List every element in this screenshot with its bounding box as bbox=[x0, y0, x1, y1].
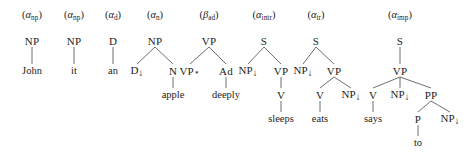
tree-node-vp: VP⋆ bbox=[179, 66, 200, 77]
tree-node-p: P bbox=[415, 114, 421, 125]
tree-node-np: NP↓ bbox=[341, 89, 360, 102]
tree-name-alpha-d-an: (αd) bbox=[105, 10, 121, 22]
tree-edge bbox=[264, 47, 281, 64]
tree-node-s: S bbox=[313, 36, 319, 47]
tree-terminal-john: John bbox=[22, 66, 42, 77]
tree-node-ad: Ad bbox=[219, 66, 233, 77]
substitution-arrow-icon: ↓ bbox=[355, 90, 360, 101]
substitution-arrow-icon: ↓ bbox=[252, 66, 257, 77]
tree-terminal-it: it bbox=[71, 66, 77, 77]
tree-terminal-sleeps: sleeps bbox=[268, 114, 294, 125]
tree-node-d: D bbox=[109, 36, 117, 47]
tree-node-v: V bbox=[277, 90, 285, 101]
tree-terminal-deeply: deeply bbox=[212, 90, 240, 101]
tree-node-s: S bbox=[261, 36, 267, 47]
tree-node-pp: PP bbox=[425, 90, 438, 101]
substitution-arrow-icon: ↓ bbox=[454, 114, 459, 125]
tree-edge bbox=[303, 47, 316, 64]
tree-name-alpha-intr-sleeps: (αintr) bbox=[253, 10, 276, 22]
tree-terminal-to: to bbox=[414, 138, 422, 149]
tree-node-np: NP bbox=[67, 36, 81, 47]
tree-node-vp: VP bbox=[393, 66, 407, 77]
tree-node-np: NP bbox=[148, 36, 162, 47]
tree-node-np: NP↓ bbox=[293, 65, 312, 78]
tree-terminal-eats: eats bbox=[312, 114, 328, 125]
tree-edge bbox=[137, 47, 155, 64]
tree-node-np: NP↓ bbox=[238, 65, 257, 78]
tree-edge bbox=[209, 47, 226, 64]
tree-name-alpha-imp-says: (αimp) bbox=[388, 10, 412, 22]
tree-node-v: V bbox=[316, 90, 324, 101]
tree-edge bbox=[316, 47, 334, 64]
tree-edges-layer bbox=[0, 0, 474, 161]
tree-node-np: NP bbox=[25, 36, 39, 47]
tag-elementary-trees-figure: (αnp)NPJohn(αnp)NPit(αd)Dan(αn)NPD↓Nappl… bbox=[0, 0, 474, 161]
tree-edge bbox=[373, 77, 400, 88]
tree-edge bbox=[431, 101, 450, 112]
tree-node-np: NP↓ bbox=[440, 113, 459, 126]
tree-edge bbox=[320, 77, 334, 88]
tree-node-vp: VP bbox=[327, 66, 341, 77]
tree-edge bbox=[418, 101, 431, 112]
tree-node-vp: VP bbox=[274, 66, 288, 77]
tree-edge bbox=[248, 47, 264, 64]
tree-node-n: N bbox=[169, 66, 177, 77]
tree-terminal-says: says bbox=[364, 114, 382, 125]
tree-name-alpha-n-apple: (αn) bbox=[147, 10, 163, 22]
tree-node-np: NP↓ bbox=[390, 89, 409, 102]
tree-edge bbox=[155, 47, 173, 64]
tree-edge bbox=[334, 77, 351, 88]
tree-edge bbox=[400, 77, 431, 88]
tree-node-s: S bbox=[397, 36, 403, 47]
tree-edge bbox=[190, 47, 209, 64]
tree-name-alpha-np-john: (αnp) bbox=[22, 10, 42, 22]
tree-node-d: D↓ bbox=[131, 65, 144, 78]
tree-node-v: V bbox=[369, 90, 377, 101]
tree-name-alpha-np-it: (αnp) bbox=[64, 10, 84, 22]
tree-name-beta-ad-deeply: (βad) bbox=[199, 10, 218, 22]
tree-name-alpha-tr-eats: (αtr) bbox=[307, 10, 324, 22]
foot-node-star-icon: ⋆ bbox=[194, 66, 200, 76]
tree-terminal-apple: apple bbox=[162, 90, 185, 101]
substitution-arrow-icon: ↓ bbox=[307, 66, 312, 77]
substitution-arrow-icon: ↓ bbox=[404, 90, 409, 101]
tree-terminal-an: an bbox=[108, 66, 118, 77]
tree-node-vp: VP bbox=[202, 36, 216, 47]
substitution-arrow-icon: ↓ bbox=[138, 66, 143, 77]
